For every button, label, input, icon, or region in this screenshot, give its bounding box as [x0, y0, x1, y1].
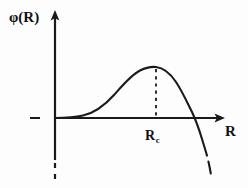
- x-axis-label: R: [225, 124, 236, 139]
- critical-radius-label: Rc: [145, 129, 160, 145]
- phi-curve-broken-tail: [208, 162, 210, 174]
- potential-barrier-figure: φ(R) R Rc: [0, 0, 248, 188]
- y-axis-label: φ(R): [9, 10, 39, 25]
- plot-canvas: [0, 0, 248, 188]
- phi-curve: [55, 67, 207, 156]
- critical-radius-subscript: c: [156, 135, 160, 145]
- critical-radius-base: R: [145, 128, 155, 143]
